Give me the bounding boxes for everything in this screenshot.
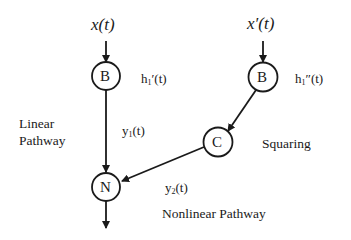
edge-label-y1: y1(t) <box>122 124 145 139</box>
annotation-h1-prime: h1′(t) <box>141 72 167 87</box>
annotation-squaring: Squaring <box>262 137 311 151</box>
edge-label-y2: y2(t) <box>165 181 188 196</box>
edge-c-to-n <box>122 147 204 181</box>
node-b-left-letter: B <box>100 69 110 84</box>
linear-pathway-label-line1: Linear <box>19 117 54 131</box>
node-b-right-letter: B <box>257 70 267 85</box>
edge-b-to-c <box>228 90 256 131</box>
annotation-h1-double-prime: h1″(t) <box>295 72 323 87</box>
block-diagram: x(t) x′(t) B B C N h1′(t) h1″(t) Squarin… <box>0 0 351 240</box>
annotation-h1-prime-suffix: ′(t) <box>152 71 167 86</box>
input-label-right: x′(t) <box>247 15 274 32</box>
node-n-letter: N <box>100 180 111 195</box>
edge-label-y1-suffix: (t) <box>133 123 145 138</box>
edge-label-y2-suffix: (t) <box>176 180 188 195</box>
nonlinear-pathway-label: Nonlinear Pathway <box>162 207 266 221</box>
linear-pathway-label-line2: Pathway <box>19 134 66 148</box>
input-label-left: x(t) <box>91 16 115 33</box>
annotation-h1-double-prime-suffix: ″(t) <box>306 71 324 86</box>
node-c-letter: C <box>212 135 222 150</box>
